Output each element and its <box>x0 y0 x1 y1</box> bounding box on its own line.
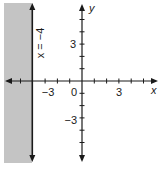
y-axis-label: y <box>88 2 96 14</box>
x-tick-label-0: 0 <box>71 86 77 98</box>
x-tick-label-3: 3 <box>116 86 122 98</box>
x-tick-label-neg3: −3 <box>42 86 55 98</box>
x-axis-label: x <box>150 84 157 96</box>
y-axis-up-arrow-icon <box>79 4 85 11</box>
inequality-graph: −3 0 3 3 −3 y x x = −4 <box>0 0 162 169</box>
y-tick-label-neg3: −3 <box>64 114 77 126</box>
y-tick-label-3: 3 <box>70 38 76 50</box>
boundary-label: x = −4 <box>34 28 46 59</box>
shaded-region <box>4 3 32 163</box>
y-axis-down-arrow-icon <box>79 155 85 162</box>
